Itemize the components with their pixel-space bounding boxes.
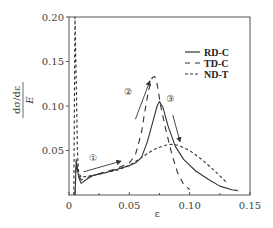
legend: RD-C TD-C ND-T (185, 47, 229, 80)
y-axis-title: dσ/dε E (11, 82, 35, 118)
y-tick-label: 0.05 (42, 145, 64, 156)
chart-canvas: 00.050.100.150.050.100.150.20 ①②③ RD-C T… (0, 0, 273, 228)
y-axis-title-numerator: dσ/dε (11, 86, 22, 114)
stage-label-1: ① (89, 153, 97, 163)
legend-label-rd-c: RD-C (204, 47, 229, 58)
stage-label-3: ③ (166, 94, 174, 104)
x-tick-label: 0 (66, 200, 72, 211)
legend-item-rd-c: RD-C (185, 47, 229, 58)
x-tick-label: 0.15 (239, 200, 261, 211)
y-axis-title-denominator: E (24, 96, 35, 105)
x-axis-title: ε (154, 208, 159, 219)
y-tick-label: 0.15 (42, 56, 64, 67)
legend-label-td-c: TD-C (204, 58, 228, 69)
x-tick-label: 0.05 (118, 200, 140, 211)
y-tick-label: 0.20 (42, 12, 64, 23)
y-tick-label: 0.10 (42, 101, 64, 112)
legend-item-nd-t: ND-T (185, 69, 229, 80)
stage-arrow-2 (135, 81, 149, 119)
stage-arrow-3 (173, 115, 180, 142)
legend-label-nd-t: ND-T (204, 69, 229, 80)
legend-item-td-c: TD-C (185, 58, 228, 69)
x-tick-label: 0.10 (179, 200, 201, 211)
plot-lines (74, 17, 238, 195)
stage-label-2: ② (124, 87, 132, 97)
